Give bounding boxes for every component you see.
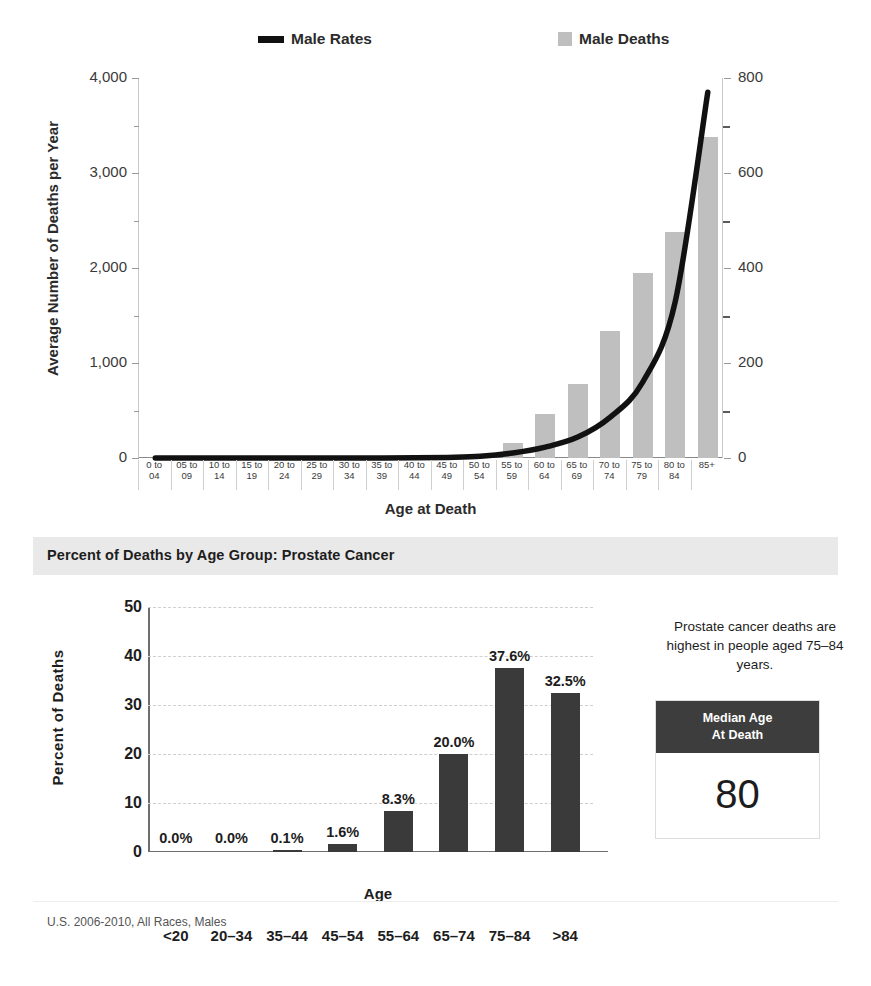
y-tick-right [724, 78, 731, 79]
x-category-label-bottom: 20–34 [204, 927, 260, 944]
x-category-label-bottom: 55–64 [371, 927, 427, 944]
y-minor-tick-left [134, 411, 139, 412]
y-minor-tick-left [134, 126, 139, 127]
median-age-card: Median Age At Death 80 [655, 700, 820, 839]
x-category-label: 20 to24 [268, 459, 301, 481]
median-age-card-header: Median Age At Death [656, 701, 819, 753]
y-tick-label-left: 3,000 [67, 163, 127, 180]
y-tick-label-left: 4,000 [67, 68, 127, 85]
x-category-label: 45 to49 [431, 459, 464, 481]
y-minor-tick-left [134, 221, 139, 222]
line-swatch-icon [258, 36, 284, 43]
footnote-text: U.S. 2006-2010, All Races, Males [47, 915, 226, 929]
x-category-label-bottom: 35–44 [259, 927, 315, 944]
bar-percent [273, 850, 302, 852]
y-tick-label-right: 400 [738, 258, 763, 275]
y-tick-label-bottom: 20 [124, 745, 142, 763]
percent-of-deaths-panel: Percent of Deaths by Age Group: Prostate… [33, 537, 838, 967]
footnote-divider [33, 901, 838, 902]
x-category-label: 70 to74 [593, 459, 626, 481]
insight-note: Prostate cancer deaths are highest in pe… [655, 617, 855, 674]
y-axis-line-bottom [148, 607, 150, 852]
y-tick-label-left: 0 [67, 448, 127, 465]
y-axis-title-bottom: Percent of Deaths [49, 566, 66, 786]
bar-value-label: 20.0% [426, 734, 482, 750]
bar-value-label: 0.0% [148, 830, 204, 846]
legend-item-male-rates: Male Rates [258, 30, 372, 48]
legend-label-male-deaths: Male Deaths [579, 30, 669, 48]
median-age-value: 80 [656, 753, 819, 836]
x-category-label-bottom: <20 [148, 927, 204, 944]
gridline [148, 607, 593, 608]
x-axis-categories-top: 0 to0405 to0910 to1415 to1920 to2425 to2… [138, 459, 723, 499]
y-minor-tick-left [134, 316, 139, 317]
chart-legend: Male Rates Male Deaths [0, 30, 871, 54]
panel-title: Percent of Deaths by Age Group: Prostate… [47, 547, 394, 563]
bar-value-label: 0.0% [204, 830, 260, 846]
y-tick-right [724, 268, 731, 269]
bar-value-label: 0.1% [259, 830, 315, 846]
y-tick-label-right: 0 [738, 448, 746, 465]
y-minor-tick-right [723, 126, 730, 128]
x-category-label: 40 to44 [398, 459, 431, 481]
x-category-label: 15 to19 [236, 459, 269, 481]
y-tick-label-bottom: 50 [124, 598, 142, 616]
y-axis-left-title: Average Number of Deaths per Year [44, 49, 61, 449]
median-age-card-title-line1: Median Age [656, 710, 819, 727]
y-tick-left [132, 363, 139, 364]
deaths-and-rates-chart: Male Rates Male Deaths Average Number of… [0, 0, 871, 520]
bar-value-label: 37.6% [482, 648, 538, 664]
bar-percent [384, 811, 413, 852]
x-category-label-bottom: 45–54 [315, 927, 371, 944]
x-category-label: 85+ [691, 459, 724, 470]
y-tick-label-left: 2,000 [67, 258, 127, 275]
y-minor-tick-right [723, 221, 730, 223]
x-category-label: 0 to04 [138, 459, 171, 481]
plot-area-top: 01,0002,0003,0004,000 0200400600800 [138, 78, 723, 458]
y-tick-left [132, 173, 139, 174]
y-tick-right [724, 458, 731, 459]
y-tick-label-bottom: 0 [133, 843, 142, 861]
x-axis-title-top: Age at Death [138, 500, 723, 517]
x-category-label: 10 to14 [203, 459, 236, 481]
y-minor-tick-right [723, 411, 730, 413]
x-category-label: 25 to29 [301, 459, 334, 481]
line-series-male-rates [139, 78, 724, 458]
x-category-label-bottom: 65–74 [426, 927, 482, 944]
x-category-label: 65 to69 [561, 459, 594, 481]
y-tick-right [724, 363, 731, 364]
y-tick-left [132, 78, 139, 79]
y-minor-tick-right [723, 316, 730, 318]
median-age-card-title-line2: At Death [656, 727, 819, 744]
y-tick-label-left: 1,000 [67, 353, 127, 370]
y-tick-label-right: 600 [738, 163, 763, 180]
x-category-label: 05 to09 [171, 459, 204, 481]
x-axis-title-bottom: Age [148, 885, 608, 902]
x-category-label-bottom: >84 [537, 927, 593, 944]
legend-item-male-deaths: Male Deaths [558, 30, 669, 48]
x-category-label: 75 to79 [626, 459, 659, 481]
x-category-label: 80 to84 [658, 459, 691, 481]
x-axis-line-bottom [148, 851, 608, 853]
x-category-label-bottom: 75–84 [482, 927, 538, 944]
y-tick-label-right: 800 [738, 68, 763, 85]
bar-swatch-icon [558, 32, 572, 46]
gridline [148, 705, 593, 706]
plot-area-bottom: 01020304050 0.0%0.0%0.1%1.6%8.3%20.0%37.… [148, 607, 593, 852]
y-tick-label-bottom: 10 [124, 794, 142, 812]
x-category-label: 35 to39 [366, 459, 399, 481]
y-tick-label-right: 200 [738, 353, 763, 370]
bar-percent [328, 844, 357, 852]
bar-percent [495, 668, 524, 852]
bar-value-label: 32.5% [537, 673, 593, 689]
x-category-label: 50 to54 [463, 459, 496, 481]
bar-percent [439, 754, 468, 852]
y-tick-label-bottom: 40 [124, 647, 142, 665]
gridline [148, 754, 593, 755]
x-category-label: 30 to34 [333, 459, 366, 481]
legend-label-male-rates: Male Rates [291, 30, 372, 48]
bar-value-label: 8.3% [371, 791, 427, 807]
y-tick-label-bottom: 30 [124, 696, 142, 714]
y-tick-right [724, 173, 731, 174]
bar-percent [551, 693, 580, 852]
